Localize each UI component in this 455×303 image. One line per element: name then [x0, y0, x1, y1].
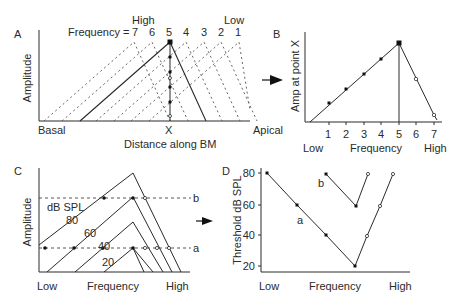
ytick-80: 80 — [243, 167, 255, 179]
panel-d-curve-b-label: b — [318, 177, 324, 189]
ytick-60: 60 — [243, 199, 255, 211]
panel-d-label: D — [222, 165, 230, 177]
panel-d-curve-a — [267, 173, 393, 266]
figure: A High Low Frequency = 7 6 5 4 3 2 1 Amp… — [0, 0, 455, 303]
apical-label: Apical — [253, 124, 283, 136]
panel-d-high-label: High — [389, 280, 412, 292]
panel-b-curve — [310, 43, 437, 122]
panel-d-curve-b — [326, 174, 368, 206]
panel-d-low-label: Low — [259, 280, 279, 292]
arrow-right-icon — [262, 75, 283, 85]
panel-d-xlabel: Frequency — [309, 280, 361, 292]
panel-c-high-label: High — [166, 280, 189, 292]
freq-label-2: 2 — [218, 26, 224, 38]
arrow-right-icon-2 — [196, 217, 213, 225]
x-point-label: X — [165, 124, 173, 136]
low-label: Low — [224, 14, 244, 26]
tick-7: 7 — [431, 128, 437, 140]
ytick-40: 40 — [243, 229, 255, 241]
freq-label-7: 7 — [132, 26, 138, 38]
panel-c-label: C — [14, 165, 22, 177]
panel-b-xlabel: Frequency — [350, 142, 402, 154]
freq-label-3: 3 — [201, 26, 207, 38]
panel-a-label: A — [14, 28, 22, 40]
panel-d: D Threshold dB SPL 80 60 40 20 — [222, 165, 412, 292]
panel-d-points — [266, 172, 395, 268]
panel-c-low-label: Low — [37, 280, 57, 292]
tick-3: 3 — [361, 128, 367, 140]
basal-label: Basal — [38, 124, 66, 136]
db-spl-legend: dB SPL — [47, 201, 84, 213]
panel-b-low-label: Low — [303, 142, 323, 154]
level-80: 80 — [66, 214, 78, 226]
panel-d-ylabel: Threshold dB SPL — [231, 175, 243, 264]
panel-b-high-label: High — [424, 142, 447, 154]
freq-label-1: 1 — [235, 26, 241, 38]
tick-6: 6 — [413, 128, 419, 140]
panel-a-envelopes — [44, 42, 257, 121]
panel-c-xlabel: Frequency — [87, 280, 139, 292]
level-20: 20 — [102, 256, 114, 268]
freq-label-4: 4 — [183, 26, 189, 38]
level-40: 40 — [98, 240, 110, 252]
tick-1: 1 — [325, 128, 331, 140]
panel-c-label-b: b — [193, 192, 199, 204]
panel-b-label: B — [273, 28, 280, 40]
tick-2: 2 — [343, 128, 349, 140]
panel-b: B Amp at point X 1 2 3 4 5 6 — [273, 28, 447, 154]
level-60: 60 — [84, 227, 96, 239]
tick-5: 5 — [396, 128, 402, 140]
high-label: High — [132, 14, 155, 26]
ytick-20: 20 — [243, 260, 255, 272]
panel-a-envelope-5 — [80, 42, 206, 121]
panel-a: A High Low Frequency = 7 6 5 4 3 2 1 Amp… — [14, 14, 283, 150]
panel-b-points — [328, 41, 436, 117]
panel-c-label-a: a — [193, 242, 200, 254]
tick-4: 4 — [378, 128, 384, 140]
panel-c-ylabel: Amplitude — [21, 198, 33, 247]
freq-label-5: 5 — [166, 26, 172, 38]
frequency-prefix: Frequency = — [68, 26, 129, 38]
panel-a-xlabel: Distance along BM — [124, 138, 216, 150]
panel-b-ylabel: Amp at point X — [289, 39, 301, 112]
panel-d-curve-a-label: a — [297, 214, 304, 226]
panel-c: C Amplitude b a dB SPL — [14, 165, 213, 292]
freq-label-6: 6 — [149, 26, 155, 38]
panel-a-ylabel: Amplitude — [21, 54, 33, 103]
